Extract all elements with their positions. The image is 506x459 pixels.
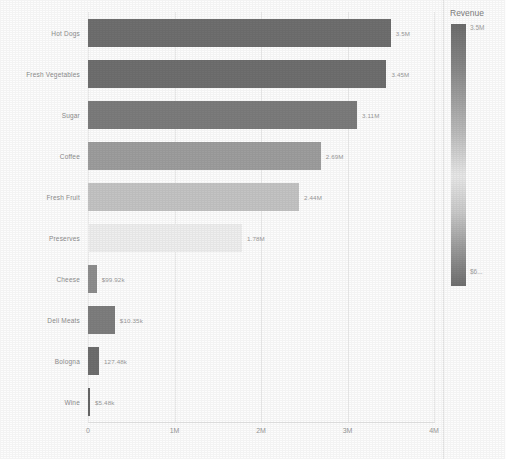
x-axis-line xyxy=(88,422,435,423)
x-tick-label: 0 xyxy=(86,427,90,434)
category-label: Bologna xyxy=(0,357,80,364)
x-tick-label: 4M xyxy=(429,427,439,434)
bar-value-label: 1.78M xyxy=(247,234,265,241)
bar-row[interactable]: $5.48k xyxy=(88,388,434,416)
gridline xyxy=(434,12,435,422)
bar[interactable] xyxy=(88,101,357,129)
bar-value-label: 2.69M xyxy=(326,152,344,159)
bar-row[interactable]: 3.11M xyxy=(88,101,434,129)
bar[interactable] xyxy=(88,142,321,170)
bar-row[interactable]: 127.48k xyxy=(88,347,434,375)
category-label: Fresh Fruit xyxy=(0,193,80,200)
bar[interactable] xyxy=(88,388,90,416)
bar-row[interactable]: 3.45M xyxy=(88,60,434,88)
bar-row[interactable]: 2.44M xyxy=(88,183,434,211)
bar[interactable] xyxy=(88,224,242,252)
legend-min-value: $6... xyxy=(470,268,483,275)
category-label: Sugar xyxy=(0,111,80,118)
bar-value-label: 3.45M xyxy=(391,70,409,77)
bar-row[interactable]: $10.35k xyxy=(88,306,434,334)
bar-row[interactable]: 2.69M xyxy=(88,142,434,170)
legend-panel: Revenue 3.5M $6... xyxy=(443,0,506,459)
category-label: Wine xyxy=(0,398,80,405)
plot-area: 3.5M3.45M3.11M2.69M2.44M1.78M$99.92k$10.… xyxy=(88,12,434,422)
category-label: Fresh Vegetables xyxy=(0,70,80,77)
bar[interactable] xyxy=(88,347,99,375)
legend-title: Revenue xyxy=(450,8,484,18)
bar-value-label: $99.92k xyxy=(102,275,125,282)
category-label: Cheese xyxy=(0,275,80,282)
bar[interactable] xyxy=(88,306,115,334)
bar-value-label: 2.44M xyxy=(304,193,322,200)
category-label: Hot Dogs xyxy=(0,29,80,36)
bar-row[interactable]: 3.5M xyxy=(88,19,434,47)
x-tick-label: 1M xyxy=(170,427,180,434)
bar-value-label: 3.5M xyxy=(396,29,410,36)
x-tick-label: 2M xyxy=(256,427,266,434)
bar-value-label: $5.48k xyxy=(95,398,114,405)
category-label: Preserves xyxy=(0,234,80,241)
bar-value-label: $10.35k xyxy=(120,316,143,323)
bar[interactable] xyxy=(88,19,391,47)
x-axis-tick-labels: 01M2M3M4M xyxy=(88,427,434,443)
category-label: Coffee xyxy=(0,152,80,159)
category-label: Deli Meats xyxy=(0,316,80,323)
bar-row[interactable]: $99.92k xyxy=(88,265,434,293)
bar[interactable] xyxy=(88,183,299,211)
plot-wrapper: Hot DogsFresh VegetablesSugarCoffeeFresh… xyxy=(0,0,440,459)
bar[interactable] xyxy=(88,265,97,293)
bar[interactable] xyxy=(88,60,386,88)
category-axis-labels: Hot DogsFresh VegetablesSugarCoffeeFresh… xyxy=(0,12,84,422)
bar-row[interactable]: 1.78M xyxy=(88,224,434,252)
legend-color-gradient xyxy=(451,24,466,286)
legend-max-value: 3.5M xyxy=(470,24,484,31)
x-tick-label: 3M xyxy=(343,427,353,434)
bar-value-label: 3.11M xyxy=(362,111,380,118)
bar-value-label: 127.48k xyxy=(104,357,127,364)
